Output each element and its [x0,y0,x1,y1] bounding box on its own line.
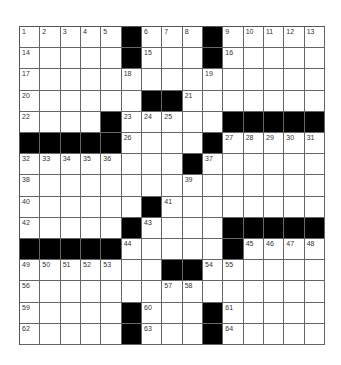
grid-cell[interactable] [305,324,325,345]
grid-cell[interactable]: 36 [101,154,121,175]
grid-cell[interactable] [244,281,264,302]
grid-cell[interactable]: 12 [284,27,304,48]
grid-cell[interactable]: 23 [122,112,142,133]
grid-cell[interactable] [284,175,304,196]
grid-cell[interactable] [101,281,121,302]
grid-cell[interactable]: 14 [20,48,40,69]
grid-cell[interactable] [183,197,203,218]
grid-cell[interactable]: 44 [122,239,142,260]
grid-cell[interactable]: 30 [284,133,304,154]
grid-cell[interactable] [203,197,223,218]
grid-cell[interactable]: 16 [223,48,243,69]
grid-cell[interactable]: 28 [244,133,264,154]
grid-cell[interactable] [40,324,60,345]
grid-cell[interactable] [101,91,121,112]
grid-cell[interactable] [40,197,60,218]
grid-cell[interactable] [162,154,182,175]
grid-cell[interactable] [305,175,325,196]
grid-cell[interactable] [203,91,223,112]
grid-cell[interactable] [61,218,81,239]
grid-cell[interactable] [203,281,223,302]
grid-cell[interactable] [183,218,203,239]
grid-cell[interactable] [40,69,60,90]
grid-cell[interactable]: 7 [162,27,182,48]
grid-cell[interactable] [40,218,60,239]
grid-cell[interactable]: 27 [223,133,243,154]
grid-cell[interactable] [305,91,325,112]
grid-cell[interactable]: 33 [40,154,60,175]
grid-cell[interactable] [223,281,243,302]
grid-cell[interactable]: 13 [305,27,325,48]
grid-cell[interactable]: 41 [162,197,182,218]
grid-cell[interactable]: 59 [20,303,40,324]
grid-cell[interactable] [122,175,142,196]
grid-cell[interactable] [142,154,162,175]
grid-cell[interactable] [223,154,243,175]
grid-cell[interactable] [81,324,101,345]
grid-cell[interactable] [264,281,284,302]
grid-cell[interactable]: 31 [305,133,325,154]
grid-cell[interactable] [183,239,203,260]
grid-cell[interactable] [203,175,223,196]
grid-cell[interactable] [244,303,264,324]
grid-cell[interactable] [183,69,203,90]
grid-cell[interactable] [183,303,203,324]
grid-cell[interactable] [61,69,81,90]
grid-cell[interactable] [264,197,284,218]
grid-cell[interactable] [81,69,101,90]
grid-cell[interactable] [101,218,121,239]
grid-cell[interactable] [305,281,325,302]
grid-cell[interactable] [244,48,264,69]
grid-cell[interactable]: 8 [183,27,203,48]
grid-cell[interactable] [223,69,243,90]
grid-cell[interactable]: 35 [81,154,101,175]
grid-cell[interactable] [122,197,142,218]
grid-cell[interactable] [61,281,81,302]
grid-cell[interactable] [183,133,203,154]
grid-cell[interactable]: 56 [20,281,40,302]
grid-cell[interactable]: 61 [223,303,243,324]
grid-cell[interactable] [284,91,304,112]
grid-cell[interactable]: 38 [20,175,40,196]
grid-cell[interactable] [162,324,182,345]
grid-cell[interactable] [101,175,121,196]
grid-cell[interactable]: 47 [284,239,304,260]
grid-cell[interactable] [284,154,304,175]
grid-cell[interactable]: 4 [81,27,101,48]
grid-cell[interactable] [305,48,325,69]
grid-cell[interactable]: 10 [244,27,264,48]
grid-cell[interactable]: 60 [142,303,162,324]
grid-cell[interactable] [244,154,264,175]
grid-cell[interactable]: 43 [142,218,162,239]
grid-cell[interactable] [244,324,264,345]
grid-cell[interactable]: 15 [142,48,162,69]
grid-cell[interactable] [61,48,81,69]
grid-cell[interactable] [81,175,101,196]
grid-cell[interactable]: 63 [142,324,162,345]
grid-cell[interactable]: 5 [101,27,121,48]
grid-cell[interactable]: 62 [20,324,40,345]
grid-cell[interactable] [40,175,60,196]
grid-cell[interactable]: 49 [20,260,40,281]
grid-cell[interactable] [223,91,243,112]
grid-cell[interactable] [61,91,81,112]
grid-cell[interactable] [284,197,304,218]
grid-cell[interactable] [264,260,284,281]
grid-cell[interactable] [203,112,223,133]
grid-cell[interactable] [81,303,101,324]
grid-cell[interactable]: 64 [223,324,243,345]
grid-cell[interactable]: 26 [122,133,142,154]
grid-cell[interactable] [40,303,60,324]
grid-cell[interactable] [122,281,142,302]
grid-cell[interactable] [142,175,162,196]
grid-cell[interactable] [142,260,162,281]
grid-cell[interactable]: 19 [203,69,223,90]
grid-cell[interactable] [61,197,81,218]
grid-cell[interactable] [142,133,162,154]
grid-cell[interactable] [101,48,121,69]
grid-cell[interactable] [284,324,304,345]
grid-cell[interactable] [264,91,284,112]
grid-cell[interactable]: 6 [142,27,162,48]
grid-cell[interactable]: 21 [183,91,203,112]
grid-cell[interactable] [162,48,182,69]
